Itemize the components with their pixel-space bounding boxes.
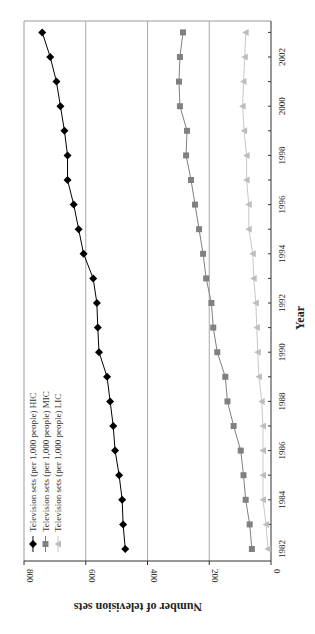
diamond-marker xyxy=(89,274,97,282)
diamond-marker xyxy=(119,520,127,528)
value-tick-label: 600 xyxy=(87,569,97,583)
value-tick-label: 400 xyxy=(149,569,159,583)
year-tick-label: 1982 xyxy=(277,540,287,558)
data-series xyxy=(38,28,271,553)
diamond-marker xyxy=(38,28,46,36)
diamond-marker xyxy=(29,540,37,548)
diamond-marker xyxy=(95,348,103,356)
square-marker xyxy=(177,103,183,109)
square-marker xyxy=(192,202,198,208)
diamond-marker xyxy=(93,299,101,307)
year-tick-label: 1998 xyxy=(277,146,287,165)
diamond-marker xyxy=(111,447,119,455)
y-axis-title: Number of television sets xyxy=(74,600,202,614)
value-tick-label: 800 xyxy=(25,569,35,583)
value-tick-label: 0 xyxy=(272,569,282,574)
diamond-marker xyxy=(64,151,72,159)
square-marker xyxy=(176,79,182,85)
year-tick-label: 1986 xyxy=(277,441,287,460)
diamond-marker xyxy=(60,127,68,135)
year-tick-label: 1988 xyxy=(277,392,287,411)
year-tick-label: 2002 xyxy=(277,48,287,66)
series-hic xyxy=(38,28,129,553)
year-tick-label: 1984 xyxy=(277,490,287,509)
year-tick-label: 1990 xyxy=(277,343,287,362)
legend-label: Television sets (per 1,000 people) LIC xyxy=(53,394,63,532)
year-tick-label: 1996 xyxy=(277,195,287,214)
diamond-marker xyxy=(106,397,114,405)
square-marker xyxy=(184,128,190,134)
diamond-marker xyxy=(56,102,64,110)
diamond-marker xyxy=(64,176,72,184)
square-marker xyxy=(196,226,202,232)
series-line xyxy=(243,32,268,549)
square-marker xyxy=(243,497,249,503)
square-marker xyxy=(247,521,253,527)
diamond-marker xyxy=(70,201,78,209)
diamond-marker xyxy=(52,78,60,86)
square-marker xyxy=(249,546,255,552)
legend: Television sets (per 1,000 people) HICTe… xyxy=(28,391,63,552)
square-marker xyxy=(200,251,206,257)
diamond-marker xyxy=(103,373,111,381)
legend-label: Television sets (per 1,000 people) HIC xyxy=(28,393,38,532)
diamond-marker xyxy=(115,471,123,479)
square-marker xyxy=(177,54,183,60)
value-tick-label: 200 xyxy=(210,569,220,583)
year-tick-label: 1992 xyxy=(277,294,287,312)
square-marker xyxy=(231,423,237,429)
x-axis-title: Year xyxy=(293,305,307,330)
diamond-marker xyxy=(94,324,102,332)
legend-label: Television sets (per 1,000 people) MIC xyxy=(41,391,51,532)
square-marker xyxy=(180,29,186,35)
year-tick-label: 2000 xyxy=(277,97,287,116)
year-tick-label: 1994 xyxy=(277,244,287,262)
diamond-marker xyxy=(121,545,129,553)
diamond-marker xyxy=(75,225,83,233)
square-marker xyxy=(208,300,214,306)
square-marker xyxy=(224,398,230,404)
square-marker xyxy=(238,448,244,454)
square-marker xyxy=(241,472,247,478)
square-marker xyxy=(210,325,216,331)
square-marker xyxy=(214,349,220,355)
line-chart: 0200400600800198219841986198819901992199… xyxy=(0,0,315,634)
square-marker xyxy=(203,275,209,281)
square-marker xyxy=(183,152,189,158)
square-marker xyxy=(222,374,228,380)
diamond-marker xyxy=(118,496,126,504)
series-line xyxy=(179,32,252,549)
axis-titles: Number of television sets Year xyxy=(74,305,307,614)
square-marker xyxy=(43,541,49,547)
diamond-marker xyxy=(80,250,88,258)
square-marker xyxy=(188,177,194,183)
diamond-marker xyxy=(109,422,117,430)
diamond-marker xyxy=(46,53,54,61)
